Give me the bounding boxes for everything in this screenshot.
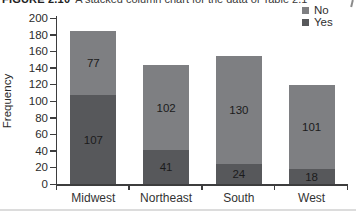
figure-caption: FIGURE 2.10A stacked column chart for th… [2,0,307,5]
y-axis-tick-label: 40 [16,145,48,157]
bar-segment-yes-northeast: 41 [143,150,189,184]
legend-label-yes: Yes [314,17,333,28]
y-axis-tick-label: 200 [16,12,48,24]
x-axis-tick [56,186,58,190]
bar-value-label: 130 [229,104,248,116]
bottom-divider [0,209,356,211]
y-axis-tick-label: 20 [16,161,48,173]
y-axis-tick [50,167,56,169]
x-axis-category-label: West [275,191,348,205]
bar-value-label: 102 [157,102,176,114]
y-axis-tick-label: 0 [16,178,48,190]
y-axis-tick [50,18,56,20]
y-axis-tick-label: 100 [16,95,48,107]
bar-segment-no-west: 101 [289,85,335,169]
y-axis-tick [50,150,56,152]
legend-label-no: No [314,5,329,16]
y-axis-tick-label: 140 [16,62,48,74]
y-axis-tick [50,134,56,136]
bar-segment-no-south: 130 [216,56,262,164]
legend-item-yes: Yes [302,17,333,28]
y-axis-tick [50,101,56,103]
y-axis-tick [50,117,56,119]
y-axis-tick-label: 80 [16,112,48,124]
y-axis-tick-label: 160 [16,45,48,57]
bar-value-label: 107 [84,134,103,146]
bar-segment-yes-west: 18 [289,169,335,184]
y-axis-tick [50,34,56,36]
y-axis-tick [50,67,56,69]
bar-value-label: 101 [302,121,321,133]
stacked-column-chart-figure: FIGURE 2.10A stacked column chart for th… [0,0,356,217]
figure-label: FIGURE 2.10 [2,0,70,5]
y-axis-line [56,16,58,186]
x-axis-tick [128,186,130,190]
bar-segment-no-midwest: 77 [70,31,116,95]
y-axis-tick [50,51,56,53]
bar-value-label: 24 [232,168,245,180]
y-axis-title: Frequency [1,61,13,141]
x-axis-category-label: Northeast [130,191,203,205]
x-axis-tick [347,186,349,190]
legend-swatch-yes-icon [302,19,309,26]
bar-value-label: 18 [305,171,318,183]
y-axis-tick-label: 60 [16,128,48,140]
y-axis-tick-label: 120 [16,78,48,90]
bar-value-label: 41 [160,161,173,173]
x-axis-tick [274,186,276,190]
bar-segment-yes-midwest: 107 [70,95,116,184]
figure-caption-text: A stacked column chart for the data of T… [75,0,307,5]
bar-value-label: 77 [87,57,100,69]
legend-item-no: No [302,5,333,16]
x-axis-tick [201,186,203,190]
x-axis-category-label: Midwest [57,191,130,205]
bar-segment-no-northeast: 102 [143,65,189,150]
bar-segment-yes-south: 24 [216,164,262,184]
legend-swatch-no-icon [302,7,309,14]
chart-legend: No Yes [302,5,333,29]
y-axis-tick-label: 180 [16,29,48,41]
y-axis-tick [50,84,56,86]
x-axis-category-label: South [203,191,276,205]
page-corner-mark [350,0,354,7]
